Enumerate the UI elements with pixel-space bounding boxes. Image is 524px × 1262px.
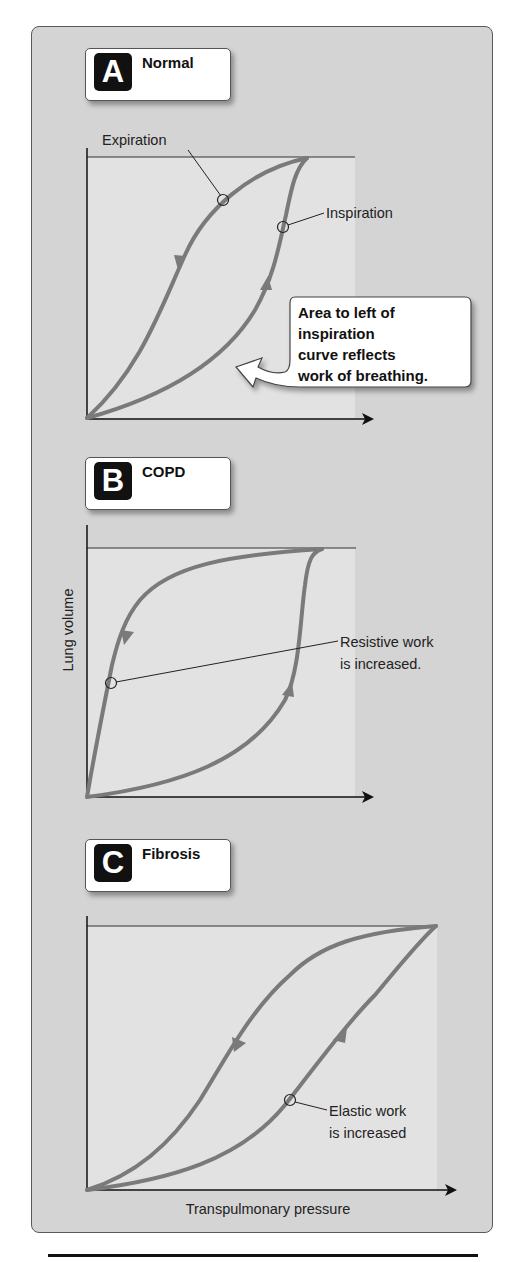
chart-b: Resistive work is increased. Lung volume (60, 525, 434, 798)
diagram-svg: Expiration Inspiration Area to left of i… (0, 0, 524, 1262)
x-axis-label: Transpulmonary pressure (186, 1201, 351, 1217)
chart-a-inspiration-label: Inspiration (326, 205, 393, 221)
chart-a: Expiration Inspiration Area to left of i… (87, 132, 471, 419)
chart-b-note-line-2: is increased. (340, 656, 421, 672)
chart-a-callout-line-3: curve reflects (298, 346, 396, 363)
y-axis-label: Lung volume (60, 588, 76, 671)
chart-c-note-line-2: is increased (329, 1125, 406, 1141)
chart-a-callout-line-2: inspiration (298, 325, 375, 342)
chart-c-note-line-1: Elastic work (329, 1103, 407, 1119)
chart-a-callout-line-4: work of breathing. (297, 367, 428, 384)
chart-a-expiration-label: Expiration (102, 132, 166, 148)
chart-b-note-line-1: Resistive work (340, 634, 434, 650)
chart-a-callout-line-1: Area to left of (298, 304, 396, 321)
chart-c: Elastic work is increased Transpulmonary… (87, 916, 455, 1217)
chart-c-plot-area (87, 926, 437, 1190)
bottom-rule (48, 1254, 478, 1257)
